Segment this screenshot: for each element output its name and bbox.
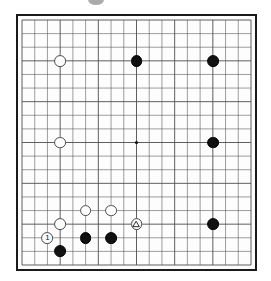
go-board[interactable]: 1: [16, 14, 257, 271]
go-diagram-root: 1: [0, 0, 271, 281]
black-stone[interactable]: [207, 137, 219, 149]
black-stone[interactable]: [207, 218, 219, 230]
black-stone[interactable]: [131, 55, 143, 67]
board-grid: [16, 14, 257, 271]
white-stone[interactable]: [54, 137, 66, 149]
white-stone[interactable]: 1: [42, 232, 54, 244]
black-stone[interactable]: [105, 232, 117, 244]
white-stone[interactable]: [54, 55, 66, 67]
white-stone[interactable]: [80, 205, 92, 217]
triangle-icon: [132, 220, 140, 228]
black-stone[interactable]: [80, 232, 92, 244]
white-stone[interactable]: [131, 218, 143, 230]
ink-smudge: [88, 0, 104, 5]
stone-move-number: 1: [45, 234, 49, 242]
black-stone[interactable]: [207, 55, 219, 67]
white-stone[interactable]: [105, 205, 117, 217]
white-stone[interactable]: [54, 218, 66, 230]
black-stone[interactable]: [54, 245, 66, 257]
